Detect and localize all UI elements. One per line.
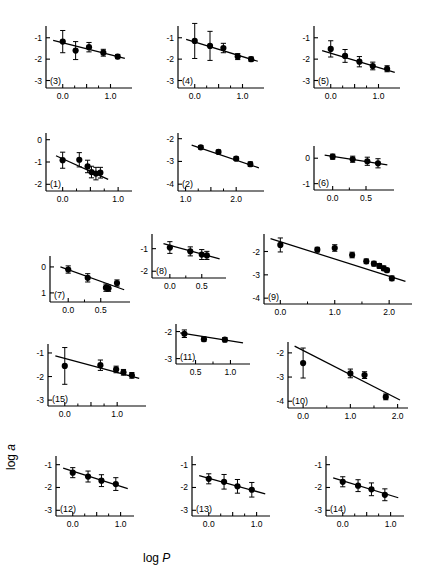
chart-panel-12: 0.01.0-1-2-3(12) (30, 448, 140, 538)
svg-text:0.0: 0.0 (337, 519, 349, 529)
svg-text:0.0: 0.0 (57, 194, 69, 204)
svg-text:(12): (12) (60, 504, 76, 514)
svg-text:2.0: 2.0 (383, 307, 395, 317)
chart-panel-10: 0.01.02.0-2-3-4(10) (262, 334, 414, 430)
svg-text:-4: -4 (276, 396, 284, 406)
svg-text:-2: -2 (34, 54, 42, 64)
chart-panel-3: 0.01.0-1-2-3(3) (20, 18, 138, 110)
svg-text:-1: -1 (34, 33, 42, 43)
svg-text:0.5: 0.5 (95, 305, 107, 315)
svg-text:-2: -2 (166, 134, 174, 144)
svg-text:-2: -2 (140, 266, 148, 276)
svg-text:(2): (2) (182, 179, 193, 189)
svg-text:-3: -3 (44, 505, 52, 515)
svg-text:-3: -3 (166, 76, 174, 86)
svg-text:2.0: 2.0 (230, 194, 242, 204)
svg-text:1.0: 1.0 (180, 194, 192, 204)
figure-panel-grid: 0.01.0-1-2-3(3)0.01.0-1-2-3(4)0.01.0-1-2… (0, 0, 436, 577)
svg-text:-1: -1 (140, 244, 148, 254)
svg-text:-2: -2 (252, 247, 260, 257)
svg-text:0: 0 (41, 262, 46, 272)
svg-text:-3: -3 (252, 270, 260, 280)
svg-text:1.0: 1.0 (111, 409, 123, 419)
chart-panel-11: 0.51.0-2-3(11) (152, 318, 256, 386)
chart-panel-9: 0.01.02.0-2-3-4(9) (238, 226, 418, 326)
chart-panel-7: 0.00.501(7) (26, 250, 136, 324)
svg-text:(10): (10) (292, 396, 308, 406)
svg-text:1.0: 1.0 (225, 367, 237, 377)
svg-text:0: 0 (305, 153, 310, 163)
svg-text:1.0: 1.0 (115, 519, 127, 529)
svg-text:-2: -2 (276, 348, 284, 358)
svg-text:(6): (6) (318, 178, 329, 188)
svg-text:-1: -1 (180, 460, 188, 470)
svg-text:-2: -2 (166, 54, 174, 64)
svg-text:0: 0 (37, 135, 42, 145)
svg-text:(13): (13) (196, 504, 212, 514)
svg-text:-3: -3 (164, 354, 172, 364)
svg-text:-2: -2 (44, 482, 52, 492)
svg-text:0.0: 0.0 (274, 307, 286, 317)
svg-text:(3): (3) (50, 76, 61, 86)
svg-text:0.5: 0.5 (190, 367, 202, 377)
svg-text:-2: -2 (314, 482, 322, 492)
chart-panel-13: 0.01.0-1-2-3(13) (166, 448, 276, 538)
svg-text:-1: -1 (36, 348, 44, 358)
chart-panel-1: 0.01.00-1-2(1) (20, 125, 138, 213)
svg-text:1.0: 1.0 (251, 519, 263, 529)
chart-panel-2: 1.02.0-2-3-4(2) (152, 125, 270, 213)
svg-text:(15): (15) (52, 394, 68, 404)
svg-text:1.0: 1.0 (385, 519, 397, 529)
svg-text:(9): (9) (268, 292, 279, 302)
svg-text:0.0: 0.0 (297, 411, 309, 421)
svg-text:-3: -3 (314, 505, 322, 515)
svg-text:1: 1 (41, 288, 46, 298)
chart-panel-8: 0.00.5-1-2(8) (128, 228, 232, 300)
svg-text:0.0: 0.0 (325, 91, 337, 101)
svg-text:1.0: 1.0 (344, 411, 356, 421)
svg-text:-3: -3 (34, 76, 42, 86)
svg-text:-2: -2 (164, 327, 172, 337)
svg-text:0.0: 0.0 (59, 409, 71, 419)
svg-text:0.5: 0.5 (196, 281, 208, 291)
svg-text:0.0: 0.0 (327, 193, 339, 203)
svg-text:0.5: 0.5 (360, 193, 372, 203)
svg-text:(4): (4) (182, 76, 193, 86)
svg-text:-2: -2 (180, 482, 188, 492)
svg-text:-2: -2 (34, 179, 42, 189)
svg-text:(1): (1) (50, 179, 61, 189)
svg-text:-3: -3 (276, 372, 284, 382)
svg-text:-3: -3 (302, 76, 310, 86)
chart-panel-5: 0.01.0-1-2-3(5) (288, 18, 406, 110)
svg-text:0.0: 0.0 (164, 281, 176, 291)
svg-text:1.0: 1.0 (112, 194, 124, 204)
svg-text:-1: -1 (302, 33, 310, 43)
svg-text:-1: -1 (166, 33, 174, 43)
svg-text:(7): (7) (54, 290, 65, 300)
svg-text:-4: -4 (252, 293, 260, 303)
svg-text:-3: -3 (180, 505, 188, 515)
chart-panel-15: 0.01.0-1-2-3(15) (22, 336, 152, 428)
svg-text:-3: -3 (166, 156, 174, 166)
svg-text:2.0: 2.0 (392, 411, 404, 421)
y-axis-title: log a (4, 444, 18, 470)
svg-text:1.0: 1.0 (237, 91, 249, 101)
svg-text:0.0: 0.0 (67, 519, 79, 529)
svg-text:(11): (11) (180, 352, 195, 362)
chart-panel-4: 0.01.0-1-2-3(4) (152, 18, 270, 110)
svg-text:-4: -4 (166, 179, 174, 189)
svg-text:(5): (5) (318, 76, 329, 86)
svg-text:0.0: 0.0 (203, 519, 215, 529)
svg-text:(8): (8) (156, 266, 167, 276)
x-axis-title: log P (143, 551, 170, 565)
chart-panel-6: 0.00.50-1(6) (288, 138, 400, 212)
chart-panel-14: 0.01.0-1-2-3(14) (300, 448, 410, 538)
svg-text:1.0: 1.0 (105, 91, 117, 101)
svg-text:(14): (14) (330, 504, 346, 514)
svg-text:-2: -2 (36, 372, 44, 382)
svg-text:-1: -1 (34, 157, 42, 167)
svg-text:-1: -1 (302, 179, 310, 189)
svg-text:-3: -3 (36, 395, 44, 405)
svg-text:-1: -1 (314, 460, 322, 470)
svg-text:1.0: 1.0 (329, 307, 341, 317)
